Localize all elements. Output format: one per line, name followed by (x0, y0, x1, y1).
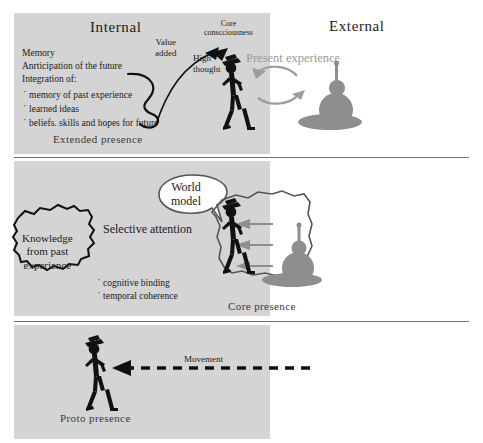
bullet-label: learned ideas (29, 104, 79, 114)
high-thought-label: High thought (193, 53, 221, 75)
bullet-label: temporal coherence (103, 291, 178, 301)
extended-presence-label: Extended presence (53, 133, 143, 147)
memory-line: Memory (22, 48, 55, 60)
bullet-label: beliefs. skills and hopes for future (29, 118, 158, 128)
panel-bottom-background (14, 325, 270, 439)
diagram-canvas: Internal External Memory Anrticipation o… (0, 0, 483, 443)
movement-label: Movement (184, 354, 223, 365)
present-experience-label: Present experience (246, 51, 340, 67)
divider-mid (14, 321, 469, 322)
bullet-cognitive-binding: ˙ cognitive binding (97, 276, 170, 290)
world-model-label: World model (171, 180, 201, 209)
bullet-label: cognitive binding (103, 278, 170, 288)
integration-line: Integration of: (22, 74, 77, 86)
title-external: External (329, 17, 385, 36)
interaction-arrowhead-right (292, 90, 305, 100)
bullet-learned-ideas: ˙ learned ideas (23, 102, 79, 116)
selective-attention-label: Selective attention (103, 222, 192, 237)
value-added-label: Value added (155, 37, 177, 60)
proto-presence-label: Proto presence (60, 412, 131, 426)
bullet-memory-past: ˙ memory of past experience (23, 88, 132, 102)
bullet-label: memory of past experience (29, 90, 132, 100)
object-gray-mid (262, 223, 322, 288)
anticipation-line: Anrticipation of the future (22, 61, 122, 73)
object-gray-top (298, 60, 362, 130)
core-presence-label: Core presence (228, 300, 296, 314)
core-consciousness-label: Core conscciousness (204, 19, 253, 37)
knowledge-cloud-label: Knowledge from past experience (22, 232, 73, 272)
bullet-temporal-coherence: ˙ temporal coherence (97, 289, 178, 303)
title-internal: Internal (90, 18, 141, 37)
divider-top (14, 157, 469, 158)
bullet-beliefs: ˙ beliefs. skills and hopes for future (23, 116, 158, 130)
